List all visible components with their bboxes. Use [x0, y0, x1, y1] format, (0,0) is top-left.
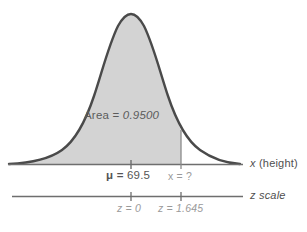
area-annotation-value: 0.9500 [123, 109, 159, 121]
z-tick-label-zero: z = 0 [117, 203, 141, 214]
mu-value: 69.5 [127, 169, 150, 181]
z-tick-label-critical: z = 1.645 [158, 203, 203, 214]
mu-symbol: μ = [106, 169, 127, 181]
x-axis-label: x (height) [250, 158, 298, 169]
x-tick-label-mean: μ = 69.5 [106, 170, 150, 182]
x-tick-label-unknown: x = ? [168, 171, 192, 182]
area-annotation-prefix: Area = [84, 109, 123, 121]
area-annotation: Area = 0.9500 [84, 110, 159, 122]
z-axis-label: z scale [250, 190, 286, 201]
x-axis-label-unit: (height) [256, 157, 298, 169]
normal-distribution-figure: Area = 0.9500 μ = 69.5 x = ? x (height) … [0, 0, 307, 232]
